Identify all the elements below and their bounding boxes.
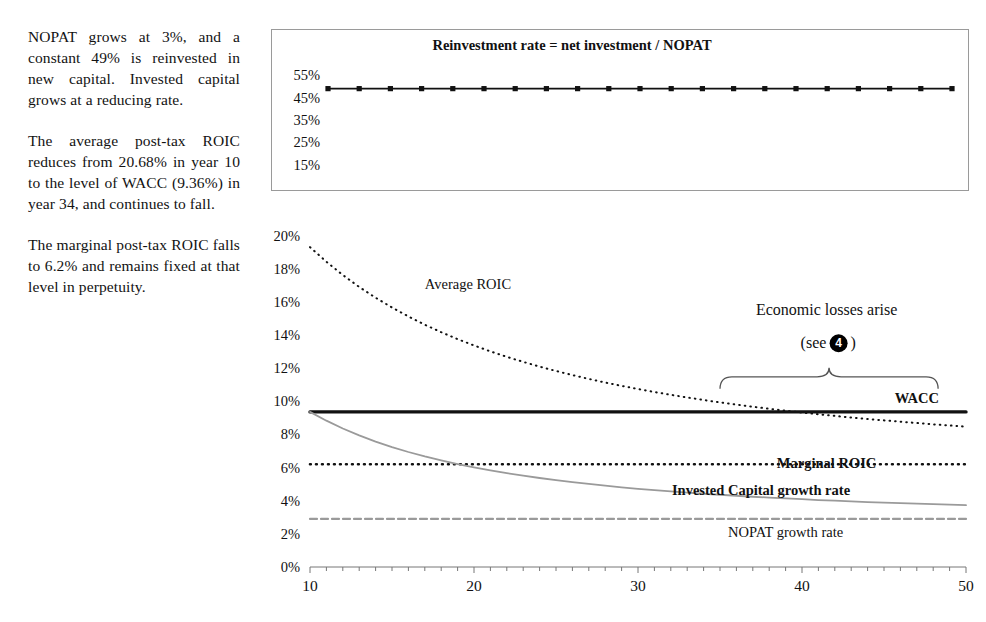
series-marker-reinvestment-rate — [450, 86, 455, 91]
roic-xtick-30: 30 — [630, 577, 646, 594]
series-line-average-roic — [310, 247, 966, 426]
roic-ytick-0: 0% — [281, 559, 300, 575]
series-marker-reinvestment-rate — [481, 86, 486, 91]
economic-losses-line1: Economic losses arise — [756, 301, 897, 318]
series-label-invested-capital-growth-rate: Invested Capital growth rate — [672, 482, 851, 498]
series-marker-reinvestment-rate — [825, 86, 830, 91]
series-label-average-roic: Average ROIC — [425, 276, 511, 292]
series-marker-reinvestment-rate — [700, 86, 705, 91]
roic-xtick-20: 20 — [466, 577, 482, 594]
reinvestment-ytick-45: 45% — [293, 90, 320, 106]
reinvestment-rate-chart: Reinvestment rate = net investment / NOP… — [271, 29, 969, 191]
roic-xtick-50: 50 — [958, 577, 974, 594]
series-marker-reinvestment-rate — [419, 86, 424, 91]
series-marker-reinvestment-rate — [856, 86, 861, 91]
economic-losses-brace — [720, 368, 938, 389]
page-root: NOPAT grows at 3%, and a constant 49% is… — [0, 0, 986, 622]
commentary-paragraph-1: NOPAT grows at 3%, and a constant 49% is… — [28, 26, 240, 110]
series-marker-reinvestment-rate — [887, 86, 892, 91]
roic-ytick-4: 4% — [281, 493, 300, 509]
roic-xtick-10: 10 — [302, 577, 318, 594]
series-marker-reinvestment-rate — [793, 86, 798, 91]
commentary-paragraph-3: The marginal post-tax ROIC falls to 6.2%… — [28, 234, 240, 297]
series-marker-reinvestment-rate — [637, 86, 642, 91]
roic-ytick-12: 12% — [273, 360, 300, 376]
roic-ytick-18: 18% — [273, 261, 300, 277]
series-marker-reinvestment-rate — [606, 86, 611, 91]
commentary-paragraph-2: The average post-tax ROIC reduces from 2… — [28, 130, 240, 214]
roic-chart: 20%18%16%14%12%10%8%6%4%2%0%1020304050Av… — [244, 205, 986, 605]
roic-ytick-20: 20% — [273, 228, 300, 244]
series-marker-reinvestment-rate — [949, 86, 954, 91]
reinvestment-chart-title: Reinvestment rate = net investment / NOP… — [432, 37, 711, 53]
roic-ytick-6: 6% — [281, 460, 300, 476]
reinvestment-ytick-35: 35% — [293, 112, 320, 128]
series-marker-reinvestment-rate — [575, 86, 580, 91]
series-marker-reinvestment-rate — [513, 86, 518, 91]
economic-losses-see-prefix: (see — [801, 334, 827, 352]
series-label-wacc: WACC — [895, 390, 939, 406]
series-marker-reinvestment-rate — [325, 86, 330, 91]
series-marker-reinvestment-rate — [544, 86, 549, 91]
series-label-marginal-roic: Marginal ROIC — [777, 455, 876, 471]
roic-chart-canvas: 20%18%16%14%12%10%8%6%4%2%0%1020304050Av… — [244, 205, 986, 605]
roic-ytick-2: 2% — [281, 526, 300, 542]
roic-xtick-40: 40 — [794, 577, 810, 594]
series-marker-reinvestment-rate — [762, 86, 767, 91]
reinvestment-chart-canvas: Reinvestment rate = net investment / NOP… — [272, 30, 968, 190]
reinvestment-ytick-55: 55% — [293, 67, 320, 83]
series-label-nopat-growth-rate: NOPAT growth rate — [728, 524, 843, 540]
series-marker-reinvestment-rate — [388, 86, 393, 91]
roic-ytick-10: 10% — [273, 393, 300, 409]
reinvestment-ytick-25: 25% — [293, 134, 320, 150]
series-marker-reinvestment-rate — [669, 86, 674, 91]
reinvestment-ytick-15: 15% — [293, 157, 320, 173]
roic-ytick-16: 16% — [273, 294, 300, 310]
reference-badge-number: 4 — [835, 336, 842, 350]
series-marker-reinvestment-rate — [357, 86, 362, 91]
roic-ytick-8: 8% — [281, 426, 300, 442]
roic-ytick-14: 14% — [273, 327, 300, 343]
series-marker-reinvestment-rate — [918, 86, 923, 91]
commentary-column: NOPAT grows at 3%, and a constant 49% is… — [28, 26, 240, 297]
series-marker-reinvestment-rate — [731, 86, 736, 91]
economic-losses-see-suffix: ) — [851, 334, 856, 352]
